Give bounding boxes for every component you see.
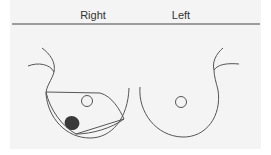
left-breast [140, 48, 239, 137]
left-breast-nipple [176, 97, 187, 108]
axilla-curve-lower-left [214, 64, 239, 70]
axilla-curve-lower-right [28, 64, 54, 72]
left-breast-outline [140, 70, 219, 137]
breast-diagram [0, 0, 271, 155]
axilla-curve-upper-right [42, 48, 54, 72]
right-breast-nipple [82, 96, 93, 107]
right-breast-quadrant-wedge [46, 92, 124, 134]
